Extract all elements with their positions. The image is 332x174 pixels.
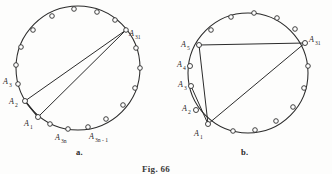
figure-number: Fig. 66 [142,164,170,174]
node-a [121,103,126,108]
node-b [302,86,307,91]
label-text: A [180,40,186,49]
label-b-a3: A 3 [177,80,187,91]
label-subscript: 1 [200,134,203,140]
label-text: A [128,29,134,38]
chord-b-a1-a31 [208,43,305,124]
node-a [133,86,138,91]
label-subscript: 2 [15,102,18,108]
label-subscript: 3 [184,85,187,91]
label-subscript: 5 [187,45,190,51]
label-text: A [177,80,183,89]
node-a [36,115,41,120]
node-b [306,64,311,69]
label-a-a3n-1: A 3n - 1 [88,132,108,143]
node-a [19,45,24,50]
label-text: A [54,133,60,142]
label-subscript: 31 [315,40,321,46]
node-b [275,16,280,21]
node-b [231,129,236,134]
node-a [138,66,143,71]
node-b [253,128,258,133]
label-b-a5: A 5 [180,40,190,51]
label-subscript: 3 [9,82,12,88]
node-a [86,125,91,130]
chord-b-a5-a1 [199,45,208,124]
chord-a-a31-a1 [38,30,126,117]
node-a [31,28,36,33]
label-text: A [8,97,14,106]
label-a-a2: A 2 [8,97,18,108]
label-subscript: 2 [188,109,191,115]
label-subscript: 1 [30,124,33,130]
circle-a [16,6,140,130]
label-text: A [23,119,29,128]
label-subscript: 3n [61,138,67,144]
node-a [113,18,118,23]
label-subscript: 3n - 1 [95,137,108,143]
node-b [206,122,211,127]
node-a [16,82,21,87]
chord-a-a31-a2 [25,30,126,101]
chord-b-a5-a31 [199,43,305,45]
label-subscript: 31 [135,34,141,40]
node-b [274,119,279,124]
node-b [293,27,298,32]
node-b [291,105,296,110]
diagram-b: A 31 A 5 A 4 A 3 A 2 A 1 [176,11,321,140]
label-b-a4: A 4 [176,60,186,71]
node-a [23,99,28,104]
label-text: A [176,60,182,69]
label-a-a1: A 1 [23,119,33,130]
node-b [252,11,257,16]
label-b-a1: A 1 [193,129,203,140]
node-group-b [188,11,311,134]
label-text: A [88,132,94,141]
label-a-a3n: A 3n [54,133,67,144]
node-a [95,10,100,15]
label-text: A [181,104,187,113]
node-b [303,41,308,46]
node-b [197,43,202,48]
label-text: A [308,35,314,44]
label-subscript: 4 [183,65,186,71]
node-b [194,108,199,113]
caption-panel-b: b. [241,147,248,157]
figure-illustration: A 31 A 3 A 2 A 1 A 3n A 3n - 1 [0,0,332,174]
node-a [14,63,19,68]
node-a [66,127,71,132]
node-a [124,28,129,33]
node-a [104,117,109,122]
label-a-a31: A 31 [128,29,141,40]
node-a [48,122,53,127]
label-text: A [2,77,8,86]
node-b [188,64,193,69]
label-a-a3: A 3 [2,77,12,88]
node-b [209,28,214,33]
node-a [72,7,77,12]
circle-b [188,13,308,133]
chord-a-a2-a1 [25,101,38,117]
node-b [229,15,234,20]
figure-page: A 31 A 3 A 2 A 1 A 3n A 3n - 1 [0,0,332,174]
label-text: A [193,129,199,138]
node-a [50,14,55,19]
caption-panel-a: a. [76,147,83,157]
label-b-a31: A 31 [308,35,321,46]
label-b-a2: A 2 [181,104,191,115]
diagram-a: A 31 A 3 A 2 A 1 A 3n A 3n - 1 [2,6,142,144]
node-a [134,46,139,51]
node-b [189,84,194,89]
